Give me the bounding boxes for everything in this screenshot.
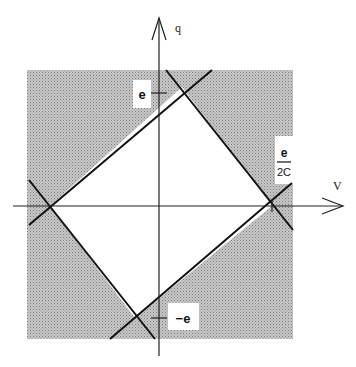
- label-fraction-numerator: e: [281, 146, 288, 160]
- diagram-canvas: q V e −e e 2C: [0, 0, 356, 367]
- label-e: e: [138, 87, 145, 102]
- label-minus-e: −e: [176, 311, 191, 326]
- q-axis-label: q: [175, 21, 181, 35]
- v-axis-label: V: [333, 179, 342, 193]
- label-fraction-denominator: 2C: [277, 166, 291, 178]
